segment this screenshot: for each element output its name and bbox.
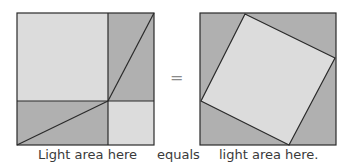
right-square	[200, 13, 336, 145]
caption-left: Light area here	[38, 145, 137, 165]
small-light-square	[108, 101, 154, 145]
caption-right: light area here.	[219, 145, 319, 165]
large-light-square	[17, 13, 108, 101]
caption-middle: equals	[157, 145, 200, 165]
equals-sign: =	[170, 68, 183, 88]
left-square	[17, 13, 154, 145]
